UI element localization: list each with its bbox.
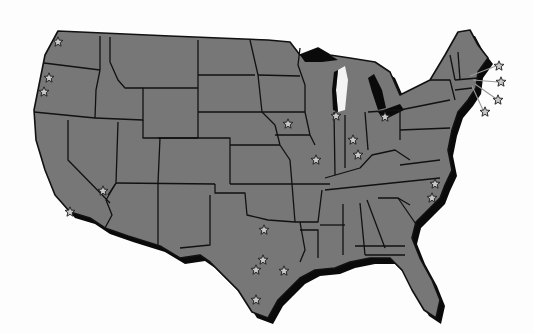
star-marker-icon[interactable] [496, 77, 506, 86]
star-marker-icon[interactable] [494, 61, 504, 70]
map-land [34, 30, 488, 318]
star-marker-icon[interactable] [493, 95, 503, 104]
us-map [0, 0, 534, 334]
star-marker-icon[interactable] [480, 107, 490, 116]
contiguous-us-outline [34, 30, 488, 318]
